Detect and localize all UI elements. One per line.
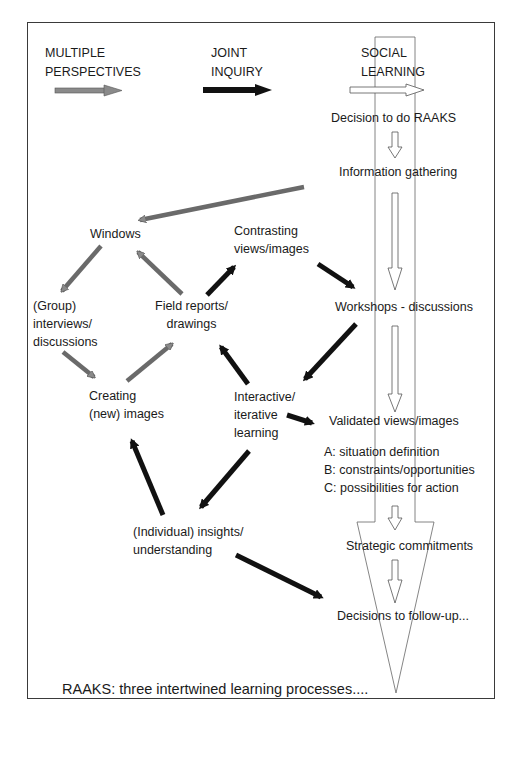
header-line: LEARNING — [361, 63, 425, 82]
node-interactive-learning: Interactive/ iterative learning — [234, 388, 295, 442]
down-arrow-icon — [388, 132, 402, 158]
header-line: PERSPECTIVES — [45, 63, 141, 82]
node-line: discussions — [33, 333, 98, 351]
node-line: (Individual) insights/ — [133, 523, 243, 541]
node-line: interviews/ — [33, 315, 98, 333]
header-line: JOINT — [211, 44, 263, 63]
down-arrow-icon — [388, 193, 402, 290]
node-line: Interactive/ — [234, 388, 295, 406]
node-windows: Windows — [90, 225, 141, 243]
node-creating-images: Creating (new) images — [89, 387, 164, 423]
step-decision-raaks: Decision to do RAAKS — [331, 109, 456, 127]
node-line: views/images — [234, 240, 309, 258]
node-line: (Group) — [33, 297, 98, 315]
node-line: Creating — [89, 387, 164, 405]
header-multiple-perspectives: MULTIPLE PERSPECTIVES — [45, 44, 141, 82]
down-arrow-icon — [388, 506, 402, 530]
node-line: iterative — [234, 406, 295, 424]
node-group-interviews: (Group) interviews/ discussions — [33, 297, 98, 351]
node-line: understanding — [133, 541, 243, 559]
step-situation-definition: A: situation definition — [324, 443, 439, 461]
black-right-arrow-icon — [203, 84, 272, 96]
node-contrasting-views: Contrasting views/images — [234, 222, 309, 258]
step-validated-views: Validated views/images — [329, 412, 459, 430]
header-joint-inquiry: JOINT INQUIRY — [211, 44, 263, 82]
header-line: MULTIPLE — [45, 44, 141, 63]
step-information-gathering: Information gathering — [339, 163, 457, 181]
diagram-caption: RAAKS: three intertwined learning proces… — [62, 680, 368, 698]
node-line: drawings — [155, 315, 228, 333]
node-line: Field reports/ — [155, 297, 228, 315]
step-decisions-follow-up: Decisions to follow-up... — [337, 607, 469, 625]
white-right-arrow-icon — [350, 84, 424, 96]
step-possibilities: C: possibilities for action — [324, 479, 459, 497]
down-arrow-icon — [388, 326, 402, 412]
header-social-learning: SOCIAL LEARNING — [361, 44, 425, 82]
step-constraints: B: constraints/opportunities — [324, 461, 475, 479]
node-individual-insights: (Individual) insights/ understanding — [133, 523, 243, 559]
node-line: (new) images — [89, 405, 164, 423]
gray-right-arrow-icon — [55, 85, 122, 96]
node-line: learning — [234, 424, 295, 442]
down-arrow-icon — [388, 560, 402, 603]
step-workshops: Workshops - discussions — [335, 298, 473, 316]
header-line: INQUIRY — [211, 63, 263, 82]
step-strategic-commitments: Strategic commitments — [346, 537, 473, 555]
node-line: Contrasting — [234, 222, 309, 240]
header-line: SOCIAL — [361, 44, 425, 63]
node-field-reports: Field reports/ drawings — [155, 297, 228, 333]
